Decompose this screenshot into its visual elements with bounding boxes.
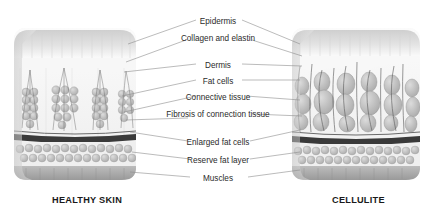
label-fibrosis-of-connection-tissue: Fibrosis of connection tissue (152, 110, 284, 121)
label-muscles: Muscles (152, 174, 284, 185)
label-list: Epidermis Collagen and elastin Dermis Fa… (0, 0, 437, 220)
label-dermis: Dermis (152, 61, 284, 72)
label-connective-tissue: Connective tissue (152, 93, 284, 104)
illustration-canvas: Epidermis Collagen and elastin Dermis Fa… (0, 0, 437, 220)
label-fat-cells: Fat cells (152, 77, 284, 88)
caption-healthy-skin: HEALTHY SKIN (52, 195, 122, 205)
label-epidermis: Epidermis (152, 17, 284, 28)
label-collagen-and-elastin: Collagen and elastin (152, 34, 284, 45)
caption-cellulite: CELLULITE (332, 195, 385, 205)
label-enlarged-fat-cells: Enlarged fat cells (152, 138, 284, 149)
label-reserve-fat-layer: Reserve fat layer (152, 156, 284, 167)
